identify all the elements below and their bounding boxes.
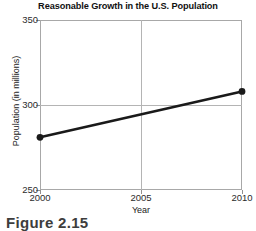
figure-root: Reasonable Growth in the U.S. Population… <box>0 0 256 231</box>
x-axis-tick-label: 2010 <box>220 192 256 203</box>
gridline-vertical <box>141 20 142 190</box>
x-axis-tick-label: 2005 <box>119 192 163 203</box>
chart-title: Reasonable Growth in the U.S. Population <box>0 0 256 12</box>
y-axis-label: Population (in millions) <box>11 16 21 186</box>
x-axis-tick-label: 2000 <box>18 192 62 203</box>
figure-caption: Figure 2.15 <box>6 215 89 231</box>
